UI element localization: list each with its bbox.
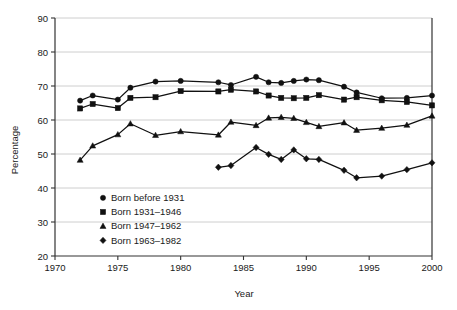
marker-square [279,95,284,100]
x-tick-label: 1985 [233,262,254,273]
y-tick-label: 20 [37,251,48,262]
marker-square [341,97,346,102]
marker-square [100,209,105,214]
marker-square [216,89,221,94]
x-axis-label: Year [234,288,253,299]
marker-circle [291,78,296,83]
marker-circle [354,90,359,95]
marker-circle [128,85,133,90]
chart-background [0,0,457,310]
marker-square [90,101,95,106]
legend-label: Born before 1931 [111,192,184,203]
marker-square [78,106,83,111]
marker-square [304,95,309,100]
marker-square [404,99,409,104]
line-chart: 2030405060708090 19701975198019851990199… [0,0,457,310]
y-tick-label: 50 [37,149,48,160]
y-tick-label: 80 [37,47,48,58]
marker-square [429,103,434,108]
legend-item-1: Born before 1931 [100,192,184,203]
marker-circle [253,74,258,79]
marker-square [266,93,271,98]
marker-circle [228,82,233,87]
marker-square [178,89,183,94]
marker-circle [279,80,284,85]
marker-circle [100,195,105,200]
marker-circle [78,98,83,103]
marker-circle [304,77,309,82]
marker-circle [90,93,95,98]
x-tick-label: 1970 [44,262,65,273]
marker-square [153,95,158,100]
y-tick-label: 40 [37,183,48,194]
y-tick-label: 60 [37,115,48,126]
marker-circle [341,84,346,89]
marker-circle [216,80,221,85]
y-tick-label: 30 [37,217,48,228]
marker-circle [316,78,321,83]
y-tick-label: 90 [37,13,48,24]
marker-circle [429,93,434,98]
marker-circle [266,80,271,85]
marker-square [253,89,258,94]
x-tick-label: 1995 [359,262,380,273]
x-tick-label: 1990 [296,262,317,273]
marker-square [115,106,120,111]
marker-square [291,96,296,101]
legend-item-4: Born 1963–1982 [100,235,181,246]
marker-circle [115,97,120,102]
legend-label: Born 1963–1982 [111,235,181,246]
marker-square [354,95,359,100]
legend-label: Born 1947–1962 [111,220,181,231]
x-tick-label: 1980 [170,262,191,273]
marker-square [128,95,133,100]
chart-container: 2030405060708090 19701975198019851990199… [0,0,457,310]
x-tick-label: 1975 [107,262,128,273]
y-tick-label: 70 [37,81,48,92]
x-tick-label: 2000 [421,262,442,273]
legend-item-3: Born 1947–1962 [100,220,181,231]
marker-circle [153,79,158,84]
legend-item-2: Born 1931–1946 [100,206,181,217]
marker-square [228,87,233,92]
y-axis-label: Percentage [9,126,20,175]
marker-square [316,93,321,98]
marker-circle [178,78,183,83]
legend-label: Born 1931–1946 [111,206,181,217]
marker-square [379,98,384,103]
